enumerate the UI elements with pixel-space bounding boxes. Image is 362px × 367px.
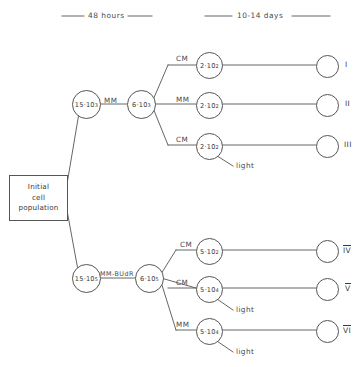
lower-row-1-end-circle bbox=[316, 240, 339, 263]
lower-row-3-roman: VI bbox=[343, 325, 351, 335]
lower-row-1-node: 5·102 bbox=[196, 238, 223, 265]
upper-row-1-end-circle bbox=[316, 55, 339, 78]
lower-node-a-value: 15·10 bbox=[75, 275, 95, 283]
upper-row-3-end-circle bbox=[316, 135, 339, 158]
upper-row-1-node: 2·102 bbox=[196, 52, 223, 79]
cell-culture-flow-diagram: 48 hours 10-14 days Initial cell populat… bbox=[0, 0, 362, 367]
lower-row-2-value: 5·10 bbox=[200, 286, 215, 294]
upper-node-a-value: 15·10 bbox=[75, 101, 95, 109]
lower-edge-label: MM-BUdR bbox=[100, 271, 134, 277]
upper-row-2-value: 2·10 bbox=[200, 102, 215, 110]
upper-node-b: 6·103 bbox=[127, 90, 156, 119]
initial-box-line-2: cell bbox=[32, 193, 45, 203]
upper-node-b-value: 6·10 bbox=[132, 101, 147, 109]
phase-label-2: 10-14 days bbox=[237, 11, 283, 20]
upper-row-2-end-circle bbox=[316, 94, 339, 117]
upper-row-3-edge-label: CM bbox=[176, 136, 188, 143]
lower-row-2-edge-label: CM bbox=[176, 279, 188, 286]
upper-row-1-value: 2·10 bbox=[200, 62, 215, 70]
lower-row-3-node: 5·104 bbox=[196, 318, 223, 345]
lower-node-b: 6·105 bbox=[135, 264, 164, 293]
lower-row-3-end-circle bbox=[316, 320, 339, 343]
upper-node-a: 15·103 bbox=[72, 90, 101, 119]
initial-box-line-1: Initial bbox=[28, 182, 49, 192]
lower-row-2-light-label: light bbox=[236, 305, 254, 314]
upper-row-3-value: 2·10 bbox=[200, 143, 215, 151]
lower-row-3-light-label: light bbox=[236, 347, 254, 356]
upper-row-1-edge-label: CM bbox=[176, 55, 188, 62]
lower-row-1-roman: IV bbox=[343, 245, 351, 255]
lower-row-2-node: 5·104 bbox=[196, 276, 223, 303]
lower-row-3-value: 5·10 bbox=[200, 328, 215, 336]
lower-row-2-roman: V bbox=[345, 283, 351, 293]
initial-box-line-3: population bbox=[18, 203, 58, 213]
lower-row-1-edge-label: CM bbox=[180, 241, 192, 248]
upper-row-2-node: 2·102 bbox=[196, 92, 223, 119]
upper-row-2-roman: II bbox=[345, 99, 350, 108]
phase-label-1: 48 hours bbox=[88, 11, 125, 20]
lower-row-2-end-circle bbox=[316, 278, 339, 301]
upper-row-3-roman: III bbox=[344, 140, 352, 149]
lower-node-a: 15·105 bbox=[72, 264, 101, 293]
lower-node-b-value: 6·10 bbox=[140, 275, 155, 283]
upper-row-1-roman: I bbox=[345, 60, 348, 69]
upper-row-2-edge-label: MM bbox=[176, 96, 189, 103]
upper-edge-label: MM bbox=[104, 97, 117, 104]
lower-row-1-value: 5·10 bbox=[200, 248, 215, 256]
lower-row-3-edge-label: MM bbox=[176, 321, 189, 328]
upper-row-3-node: 2·102 bbox=[196, 133, 223, 160]
initial-cell-population-box: Initial cell population bbox=[9, 175, 68, 221]
upper-row-3-light-label: light bbox=[236, 161, 254, 170]
